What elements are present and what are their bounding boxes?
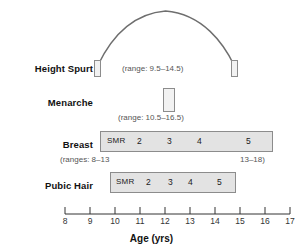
breast-range-left-note: (ranges: 8–13 [60,155,109,164]
menarche-range-note: (range: 10.5–16.5) [118,113,184,122]
pubic-smr-stage-3: 3 [168,178,173,187]
height-spurt-end-marker [231,60,238,77]
pubic-smr-stage-5: 5 [217,178,222,187]
breast-range-right-note: 13–18) [240,155,265,164]
axis-tick-10: 10 [106,216,124,226]
axis-tick-14: 14 [206,216,224,226]
height-spurt-range-note: (range: 9.5–14.5) [122,64,183,73]
axis-tick-15: 15 [231,216,249,226]
axis-tick-8: 8 [56,216,74,226]
axis-title: Age (yrs) [0,233,303,244]
breast-smr-stage-2: 2 [137,137,142,146]
menarche-marker [163,88,175,112]
axis-tick-12: 12 [156,216,174,226]
axis-tick-17: 17 [281,216,299,226]
height-spurt-start-marker [94,60,101,77]
height-spurt-arc [0,0,303,90]
breast-smr-word: SMR [107,137,125,145]
breast-smr-stage-3: 3 [167,137,172,146]
axis-tick-9: 9 [81,216,99,226]
axis-tick-13: 13 [181,216,199,226]
growth-chart: Height Spurt (range: 9.5–14.5) Menarche … [0,0,303,252]
breast-smr-stage-4: 4 [197,137,202,146]
row-label-menarche: Menarche [8,97,93,108]
axis-tick-16: 16 [256,216,274,226]
row-label-height-spurt: Height Spurt [8,63,93,74]
pubic-smr-stage-4: 4 [188,178,193,187]
row-label-pubic-hair: Pubic Hair [8,180,93,191]
pubic-smr-word: SMR [116,178,134,186]
pubic-smr-stage-2: 2 [146,178,151,187]
breast-smr-stage-5: 5 [246,137,251,146]
row-label-breast: Breast [8,139,93,150]
axis-tick-11: 11 [131,216,149,226]
